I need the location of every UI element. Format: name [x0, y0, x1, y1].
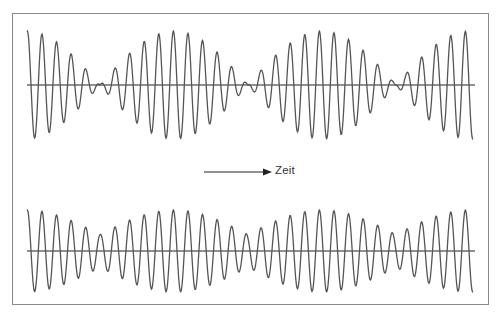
time-axis-label: Zeit	[275, 164, 295, 176]
beat-waves-plot	[0, 0, 502, 318]
time-arrow	[204, 169, 272, 176]
top-beat-wave	[27, 31, 475, 139]
arrow-head-icon	[263, 169, 272, 176]
bottom-beat-wave	[27, 210, 475, 292]
